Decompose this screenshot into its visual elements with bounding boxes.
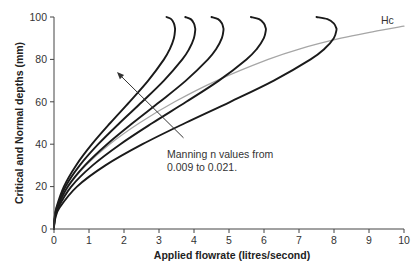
y-tick-label: 0 bbox=[41, 223, 47, 235]
normal-depth-curve bbox=[54, 17, 266, 229]
x-tick-label: 2 bbox=[121, 234, 127, 246]
x-axis-title: Applied flowrate (litres/second) bbox=[154, 249, 310, 261]
axes bbox=[50, 17, 404, 233]
y-axis-title: Critical and Normal depths (mm) bbox=[13, 42, 25, 204]
plot-curves bbox=[54, 17, 404, 229]
x-tick-label: 6 bbox=[261, 234, 267, 246]
x-tick-label: 1 bbox=[86, 234, 92, 246]
x-tick-label: 0 bbox=[51, 234, 57, 246]
normal-depth-curve bbox=[54, 17, 337, 229]
annotation-line-1: Manning n values from bbox=[167, 148, 273, 160]
x-tick-label: 4 bbox=[191, 234, 197, 246]
y-tick-label: 80 bbox=[35, 53, 47, 65]
annotation-line-2: 0.009 to 0.021. bbox=[167, 161, 237, 173]
x-tick-label: 8 bbox=[331, 234, 337, 246]
y-tick-label: 40 bbox=[35, 138, 47, 150]
y-tick-label: 60 bbox=[35, 96, 47, 108]
y-tick-label: 100 bbox=[29, 11, 47, 23]
hc-label: Hc bbox=[381, 14, 394, 26]
y-tick-label: 20 bbox=[35, 180, 47, 192]
x-tick-label: 3 bbox=[156, 234, 162, 246]
x-tick-label: 9 bbox=[366, 234, 372, 246]
normal-depth-curve bbox=[54, 17, 175, 229]
normal-depth-curve bbox=[54, 17, 195, 229]
x-tick-label: 5 bbox=[226, 234, 232, 246]
x-tick-label: 7 bbox=[296, 234, 302, 246]
tick-labels: 020406080100012345678910 bbox=[29, 11, 410, 246]
chart: 020406080100012345678910 Manning n value… bbox=[0, 0, 420, 275]
x-tick-label: 10 bbox=[398, 234, 410, 246]
